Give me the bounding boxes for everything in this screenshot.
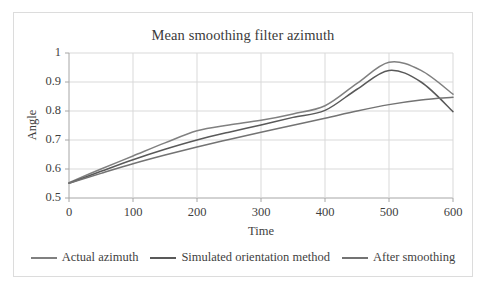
x-axis-ticks (69, 198, 453, 202)
line-chart-plot: 0.5 0.6 0.7 0.8 0.9 1 0 100 200 300 400 … (14, 13, 474, 278)
x-tick-label: 0 (66, 205, 72, 219)
chart-frame: Mean smoothing filter azimuth (13, 12, 473, 277)
legend-item[interactable]: Simulated orientation method (144, 250, 336, 265)
y-tick-label: 0.5 (45, 190, 61, 204)
y-tick-label: 0.6 (45, 161, 61, 175)
legend-item[interactable]: Actual azimuth (25, 250, 145, 265)
y-tick-label: 0.8 (45, 103, 61, 117)
legend-label: Actual azimuth (62, 250, 139, 265)
y-axis-ticks (65, 53, 69, 198)
y-axis-tick-labels: 0.5 0.6 0.7 0.8 0.9 1 (45, 45, 61, 204)
legend-line-swatch (150, 257, 176, 259)
y-axis-title: Angle (25, 109, 39, 140)
x-axis-tick-labels: 0 100 200 300 400 500 600 (66, 205, 463, 219)
legend-line-swatch (31, 257, 57, 259)
legend-item[interactable]: After smoothing (336, 250, 461, 265)
x-tick-label: 200 (188, 205, 207, 219)
x-axis-title: Time (248, 224, 274, 238)
x-tick-label: 400 (316, 205, 335, 219)
x-tick-label: 300 (252, 205, 271, 219)
legend-label: After smoothing (373, 250, 455, 265)
y-tick-label: 0.7 (45, 132, 61, 146)
y-tick-label: 1 (55, 45, 61, 59)
x-tick-label: 600 (444, 205, 463, 219)
x-tick-label: 500 (380, 205, 399, 219)
legend-line-swatch (342, 257, 368, 259)
chart-legend: Actual azimuthSimulated orientation meth… (14, 250, 472, 265)
legend-label: Simulated orientation method (181, 250, 330, 265)
y-tick-label: 0.9 (45, 74, 61, 88)
x-tick-label: 100 (124, 205, 143, 219)
